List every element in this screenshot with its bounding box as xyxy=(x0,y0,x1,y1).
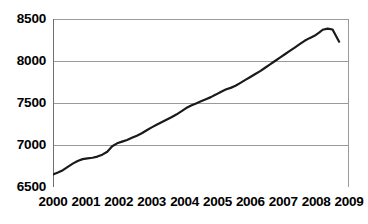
x-axis-label-group: 2000200120022003200420052006200720082009 xyxy=(0,194,368,214)
y-axis-tick-label: 7000 xyxy=(0,137,46,152)
x-axis-tick-label: 2009 xyxy=(329,194,368,209)
y-axis-tick-label: 7500 xyxy=(0,95,46,110)
y-axis-tick-label: 6500 xyxy=(0,179,46,194)
line-chart: 65007000750080008500 2000200120022003200… xyxy=(0,0,368,224)
y-axis-label-group: 65007000750080008500 xyxy=(0,0,368,224)
y-axis-tick-label: 8000 xyxy=(0,53,46,68)
y-axis-tick-label: 8500 xyxy=(0,11,46,26)
